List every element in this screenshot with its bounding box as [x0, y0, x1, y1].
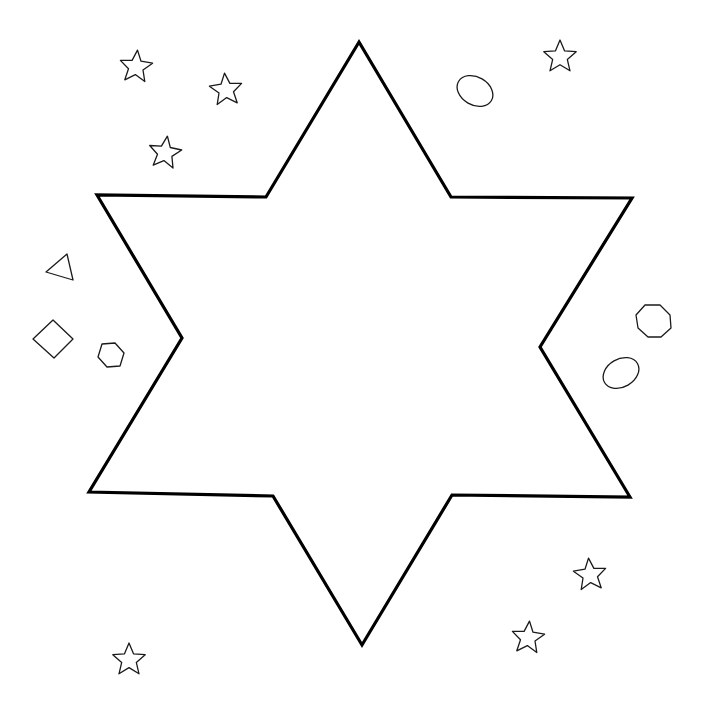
- coloring-page: [0, 0, 712, 717]
